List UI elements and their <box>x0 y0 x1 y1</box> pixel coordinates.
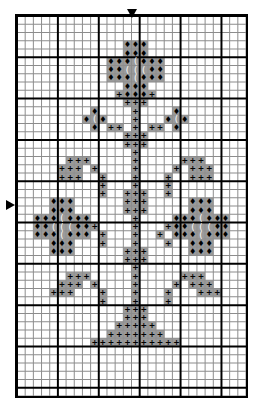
center-column-arrow-icon <box>127 9 137 18</box>
svg-text:+: + <box>116 338 123 347</box>
svg-text:♦: ♦ <box>83 115 90 124</box>
svg-text:♦: ♦ <box>50 247 57 256</box>
svg-text:+: + <box>165 338 172 347</box>
svg-text:♦: ♦ <box>157 73 164 82</box>
svg-text:+: + <box>165 296 172 305</box>
svg-text:♦: ♦ <box>67 247 74 256</box>
svg-text:+: + <box>141 98 148 107</box>
svg-text:+: + <box>157 123 164 132</box>
svg-text:+: + <box>91 222 98 231</box>
svg-text:♦: ♦ <box>91 123 98 132</box>
svg-text:+: + <box>190 280 197 289</box>
svg-text:+: + <box>91 164 98 173</box>
svg-text:♦: ♦ <box>181 115 188 124</box>
svg-text:♦: ♦ <box>148 73 155 82</box>
svg-text:♦: ♦ <box>83 230 90 239</box>
svg-text:♦: ♦ <box>165 115 172 124</box>
svg-text:+: + <box>91 280 98 289</box>
svg-text:+: + <box>206 173 213 182</box>
svg-text:+: + <box>141 206 148 215</box>
svg-text:+: + <box>83 272 90 281</box>
svg-text:♦: ♦ <box>173 123 180 132</box>
svg-text:+: + <box>83 156 90 165</box>
svg-text:+: + <box>124 338 131 347</box>
svg-text:+: + <box>100 189 107 198</box>
svg-text:+: + <box>198 288 205 297</box>
svg-text:♦: ♦ <box>34 230 41 239</box>
svg-text:+: + <box>116 90 123 99</box>
svg-text:+: + <box>141 338 148 347</box>
svg-text:+: + <box>100 239 107 248</box>
svg-text:+: + <box>198 173 205 182</box>
svg-text:+: + <box>165 189 172 198</box>
svg-text:♦: ♦ <box>58 247 65 256</box>
svg-text:+: + <box>124 98 131 107</box>
svg-text:♦: ♦ <box>173 230 180 239</box>
svg-text:+: + <box>141 140 148 149</box>
svg-text:+: + <box>75 173 82 182</box>
svg-text:♦: ♦ <box>75 230 82 239</box>
svg-text:+: + <box>67 173 74 182</box>
svg-text:+: + <box>108 338 115 347</box>
svg-text:♦: ♦ <box>206 247 213 256</box>
svg-text:+: + <box>51 288 58 297</box>
svg-text:+: + <box>149 123 156 132</box>
svg-text:+: + <box>190 173 197 182</box>
svg-text:♦: ♦ <box>108 73 115 82</box>
svg-text:+: + <box>75 280 82 289</box>
svg-text:+: + <box>132 338 139 347</box>
svg-text:+: + <box>59 173 66 182</box>
svg-text:+: + <box>165 222 172 231</box>
svg-text:+: + <box>59 288 66 297</box>
svg-text:♦: ♦ <box>214 230 221 239</box>
svg-text:♦: ♦ <box>181 230 188 239</box>
svg-text:+: + <box>67 288 74 297</box>
svg-text:+: + <box>116 123 123 132</box>
svg-text:+: + <box>173 338 180 347</box>
svg-text:♦: ♦ <box>189 247 196 256</box>
svg-text:+: + <box>124 206 131 215</box>
svg-text:♦: ♦ <box>42 230 49 239</box>
svg-text:+: + <box>124 255 131 264</box>
svg-text:+: + <box>149 338 156 347</box>
svg-text:+: + <box>141 255 148 264</box>
svg-text:♦: ♦ <box>116 73 123 82</box>
svg-text:+: + <box>124 140 131 149</box>
svg-text:+: + <box>157 338 164 347</box>
cross-stitch-chart: ♦♦♦♦♦♦♦♦♦(♦♦♦♦♦(((♦♦♦♦♦(♦♦♦♦♦♦+♦♦♦++++♦+… <box>0 0 264 420</box>
svg-text:♦: ♦ <box>99 115 106 124</box>
svg-text:+: + <box>181 272 188 281</box>
center-row-arrow-icon <box>6 200 15 210</box>
svg-text:+: + <box>181 156 188 165</box>
svg-text:+: + <box>157 230 164 239</box>
svg-text:+: + <box>149 90 156 99</box>
svg-text:+: + <box>206 288 213 297</box>
svg-text:+: + <box>214 288 221 297</box>
svg-text:+: + <box>165 239 172 248</box>
grid-canvas: ♦♦♦♦♦♦♦♦♦(♦♦♦♦♦(((♦♦♦♦♦(♦♦♦♦♦♦+♦♦♦++++♦+… <box>17 16 246 396</box>
pattern-grid[interactable]: ♦♦♦♦♦♦♦♦♦(♦♦♦♦♦(((♦♦♦♦♦(♦♦♦♦♦♦+♦♦♦++++♦+… <box>15 14 248 398</box>
svg-text:+: + <box>100 296 107 305</box>
svg-text:+: + <box>173 280 180 289</box>
svg-text:♦: ♦ <box>198 247 205 256</box>
svg-text:+: + <box>108 123 115 132</box>
svg-text:+: + <box>173 164 180 173</box>
svg-text:+: + <box>100 338 107 347</box>
svg-text:♦: ♦ <box>222 230 229 239</box>
svg-text:+: + <box>91 338 98 347</box>
